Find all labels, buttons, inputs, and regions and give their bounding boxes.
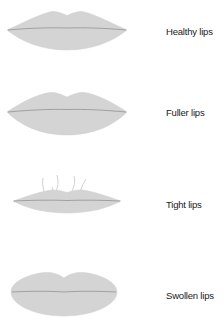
label-tight-lips: Tight lips [166,199,202,210]
label-swollen-lips: Swollen lips [166,290,214,301]
label-healthy-lips: Healthy lips [166,26,213,37]
lip-types-diagram: Healthy lips Fuller lips Tight lips [0,0,224,322]
lip-row-swollen: Swollen lips [0,262,224,322]
lip-row-fuller: Fuller lips [0,82,224,142]
lip-row-healthy: Healthy lips [0,0,224,60]
tight-lips-illustration [0,172,224,222]
label-fuller-lips: Fuller lips [166,107,204,118]
lip-row-tight: Tight lips [0,172,224,222]
